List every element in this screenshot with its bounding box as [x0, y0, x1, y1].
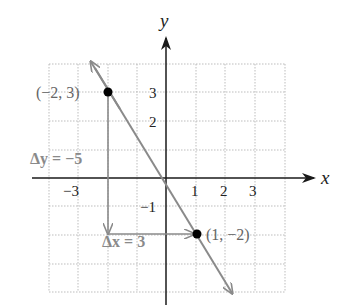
x-tick-neg1: −1	[140, 199, 156, 215]
delta-y-label: Δy = −5	[30, 150, 82, 168]
point-b	[193, 230, 202, 239]
x-axis-label: x	[320, 167, 330, 188]
y-axis-label: y	[158, 10, 169, 31]
x-tick-1: 1	[191, 183, 199, 199]
point-a-label: (−2, 3)	[36, 84, 80, 102]
x-tick-3: 3	[249, 183, 257, 199]
graph-svg: y x −3 −1 1 2 3 3 2 (−2, 3) (1, −2) Δy =…	[0, 0, 351, 307]
x-tick-neg3: −3	[63, 183, 79, 199]
point-b-label: (1, −2)	[206, 226, 250, 244]
coordinate-plane-diagram: y x −3 −1 1 2 3 3 2 (−2, 3) (1, −2) Δy =…	[0, 0, 351, 307]
point-a	[104, 88, 113, 97]
y-tick-3: 3	[149, 85, 157, 101]
y-tick-2: 2	[149, 114, 157, 130]
delta-x-label: Δx = 3	[102, 233, 145, 250]
graph-line-start-arrow	[91, 62, 120, 109]
x-tick-2: 2	[220, 183, 228, 199]
